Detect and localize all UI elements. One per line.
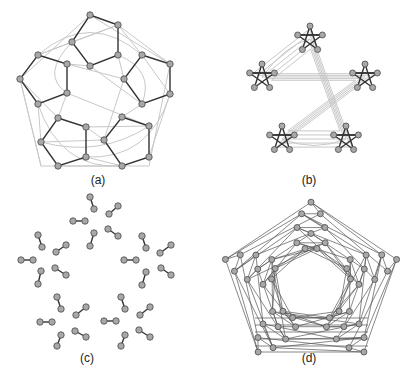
graph-node [331, 132, 337, 138]
graph-node [299, 211, 305, 217]
background-edge [90, 66, 142, 104]
graph-node [361, 349, 367, 355]
background-edge [41, 140, 104, 142]
background-edge [67, 93, 149, 126]
background-edge [20, 79, 41, 166]
graph-node [63, 242, 69, 248]
graph-edge [275, 249, 350, 318]
graph-node [64, 90, 70, 96]
graph-node [55, 115, 61, 121]
graph-node [374, 70, 380, 76]
graph-node [333, 336, 339, 342]
graph-node [82, 218, 88, 224]
graph-node [37, 319, 43, 325]
graph-node [58, 306, 64, 312]
graph-node [168, 272, 174, 278]
graph-node [346, 308, 352, 314]
graph-node [315, 47, 321, 53]
graph-node [351, 147, 357, 153]
graph-node [167, 91, 173, 97]
graph-edge [317, 249, 347, 269]
graph-node [121, 257, 127, 263]
graph-node [394, 256, 400, 262]
graph-node [87, 194, 93, 200]
graph-node [385, 268, 391, 274]
graph-node [83, 304, 89, 310]
graph-node [275, 324, 281, 330]
graph-node [370, 85, 376, 91]
graph-node [314, 246, 320, 252]
graph-node [363, 252, 369, 258]
graph-node [101, 318, 107, 324]
graph-node [115, 203, 121, 209]
graph-node [299, 47, 305, 53]
graph-node [146, 123, 152, 129]
graph-node [323, 324, 329, 330]
graph-node [293, 324, 299, 330]
graph-node [18, 257, 24, 263]
graph-node [35, 281, 41, 287]
graph-node [139, 233, 145, 239]
background-edge [67, 64, 124, 79]
graph-node [237, 252, 243, 258]
graph-node [63, 272, 69, 278]
graph-node [137, 312, 143, 318]
graph-node [167, 61, 173, 67]
pentagon-cluster [104, 117, 149, 166]
graph-node [39, 244, 45, 250]
graph-node [158, 265, 164, 271]
graph-node [322, 225, 328, 231]
graph-node [91, 230, 97, 236]
pentagon-cluster [72, 15, 118, 66]
graph-node [30, 257, 36, 263]
graph-node [280, 308, 286, 314]
graph-node [118, 343, 124, 349]
graph-node [372, 276, 378, 282]
graph-node [308, 199, 314, 205]
graph-node [361, 335, 367, 341]
graph-node [341, 324, 347, 330]
graph-node [279, 123, 285, 129]
graph-node [136, 327, 142, 333]
graph-node [87, 243, 93, 249]
graph-edge [325, 243, 350, 279]
graph-node [294, 225, 300, 231]
background-edge [58, 93, 67, 118]
graph-node [270, 308, 276, 314]
graph-node [287, 147, 293, 153]
graph-edge [225, 214, 301, 260]
background-edge [72, 25, 170, 64]
graph-node [347, 257, 353, 263]
ring-edge [257, 34, 369, 143]
graph-node [260, 281, 266, 287]
graph-node [64, 61, 70, 67]
graph-edge [272, 249, 347, 318]
graph-node [101, 137, 107, 143]
graph-node [290, 315, 296, 321]
graph-node [251, 85, 257, 91]
graph-node [147, 334, 153, 340]
graph-node [133, 257, 139, 263]
graph-node [58, 332, 64, 338]
graph-node [139, 101, 145, 107]
panel-c-label: (c) [80, 351, 94, 365]
graph-node [247, 70, 253, 76]
background-edge [86, 126, 149, 127]
graph-node [260, 321, 266, 327]
graph-node [344, 266, 350, 272]
graph-node [267, 85, 273, 91]
graph-node [302, 246, 308, 252]
graph-node [52, 265, 58, 271]
graph-node [143, 269, 149, 275]
graph-node [83, 124, 89, 130]
graph-node [146, 154, 152, 160]
graph-node [83, 334, 89, 340]
graph-node [255, 266, 261, 272]
graph-edge [275, 249, 305, 269]
graph-node [335, 147, 341, 153]
graph-node [343, 123, 349, 129]
graph-node [326, 315, 332, 321]
graph-node [38, 268, 44, 274]
graph-node [272, 266, 278, 272]
graph-node [55, 163, 61, 169]
